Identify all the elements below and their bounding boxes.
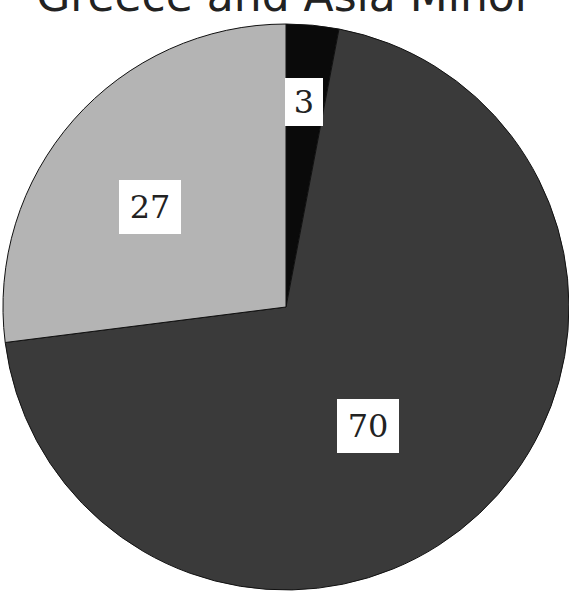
data-label-3: 3 — [285, 78, 323, 126]
data-label-70: 70 — [337, 399, 399, 453]
data-label-27: 27 — [119, 180, 181, 234]
